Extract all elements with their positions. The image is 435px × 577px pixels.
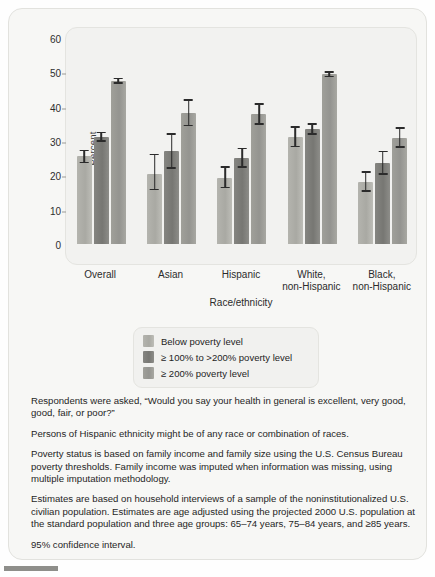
bar-group xyxy=(66,28,136,264)
legend-swatch-200-poverty-level xyxy=(143,367,154,379)
x-axis-label: Asian xyxy=(135,269,205,281)
note-confidence-interval: 95% confidence interval. xyxy=(31,539,423,551)
bar xyxy=(181,113,196,244)
error-bar xyxy=(241,148,243,168)
chart-legend: Below poverty level ≥ 100% to >200% pove… xyxy=(133,327,319,388)
figure-page: Percent 0102030405060 OverallAsianHispan… xyxy=(0,0,435,577)
error-bar xyxy=(365,171,367,192)
error-bar xyxy=(258,103,260,125)
error-bar xyxy=(117,78,119,84)
bar xyxy=(94,137,109,244)
bar-column xyxy=(358,36,373,244)
legend-label: ≥ 100% to >200% poverty level xyxy=(161,352,292,363)
bar-column xyxy=(147,36,162,244)
legend-item: ≥ 200% poverty level xyxy=(143,367,309,379)
figure-notes: Respondents were asked, “Would you say y… xyxy=(31,395,423,551)
error-bar xyxy=(224,166,226,188)
x-axis-label: Hispanic xyxy=(206,269,276,281)
bar-column xyxy=(322,36,337,244)
bar xyxy=(375,163,390,244)
y-tick-label: 10 xyxy=(35,207,61,217)
bar-column xyxy=(288,36,303,244)
note-respondents-question: Respondents were asked, “Would you say y… xyxy=(31,395,423,420)
note-estimates-methodology: Estimates are based on household intervi… xyxy=(31,493,423,530)
bar xyxy=(111,81,126,244)
legend-item: Below poverty level xyxy=(143,335,309,347)
bar-column xyxy=(392,36,407,244)
error-bar xyxy=(329,71,331,77)
x-axis-label: White,non-Hispanic xyxy=(276,269,346,292)
error-bar xyxy=(382,151,384,175)
bar-column xyxy=(305,36,320,244)
bar xyxy=(305,129,320,244)
x-axis-title: Race/ethnicity xyxy=(65,297,417,308)
y-tick-label: 60 xyxy=(35,35,61,45)
legend-item: ≥ 100% to >200% poverty level xyxy=(143,351,309,363)
bar xyxy=(392,138,407,244)
y-tick-label: 50 xyxy=(35,69,61,79)
x-axis-label: Overall xyxy=(65,269,135,281)
figure-card: Percent 0102030405060 OverallAsianHispan… xyxy=(8,8,427,560)
bar-group xyxy=(277,28,347,264)
error-bar xyxy=(188,99,190,126)
error-bar xyxy=(295,126,297,147)
bar-group xyxy=(207,28,277,264)
legend-label: ≥ 200% poverty level xyxy=(161,368,249,379)
bar-groups xyxy=(66,28,416,264)
note-hispanic-ethnicity: Persons of Hispanic ethnicity might be o… xyxy=(31,428,423,440)
note-poverty-status: Poverty status is based on family income… xyxy=(31,448,423,485)
bar xyxy=(322,74,337,244)
bar-column xyxy=(181,36,196,244)
y-tick-label: 40 xyxy=(35,104,61,114)
legend-swatch-100-to-200-poverty-level xyxy=(143,351,154,363)
bar-column xyxy=(375,36,390,244)
bar-group xyxy=(136,28,206,264)
y-tick-label: 20 xyxy=(35,172,61,182)
bar-column xyxy=(77,36,92,244)
bar-column xyxy=(94,36,109,244)
error-bar xyxy=(154,154,156,191)
bar-column xyxy=(217,36,232,244)
bar-group xyxy=(348,28,418,264)
error-bar xyxy=(83,150,85,164)
legend-label: Below poverty level xyxy=(161,336,243,347)
error-bar xyxy=(100,132,102,142)
error-bar xyxy=(399,127,401,148)
error-bar xyxy=(171,133,173,168)
bar-column xyxy=(111,36,126,244)
bar-column xyxy=(234,36,249,244)
legend-swatch-below-poverty-level xyxy=(143,335,154,347)
bar xyxy=(77,156,92,244)
bar xyxy=(251,114,266,244)
y-tick-label: 30 xyxy=(35,138,61,148)
footer-rule xyxy=(4,566,58,571)
y-tick-label: 0 xyxy=(35,241,61,251)
error-bar xyxy=(312,123,314,135)
bar-column xyxy=(251,36,266,244)
bar xyxy=(234,158,249,244)
bar xyxy=(288,137,303,244)
plot-area: Percent 0102030405060 xyxy=(65,27,417,265)
x-axis-label: Black,non-Hispanic xyxy=(347,269,417,292)
bar-column xyxy=(164,36,179,244)
